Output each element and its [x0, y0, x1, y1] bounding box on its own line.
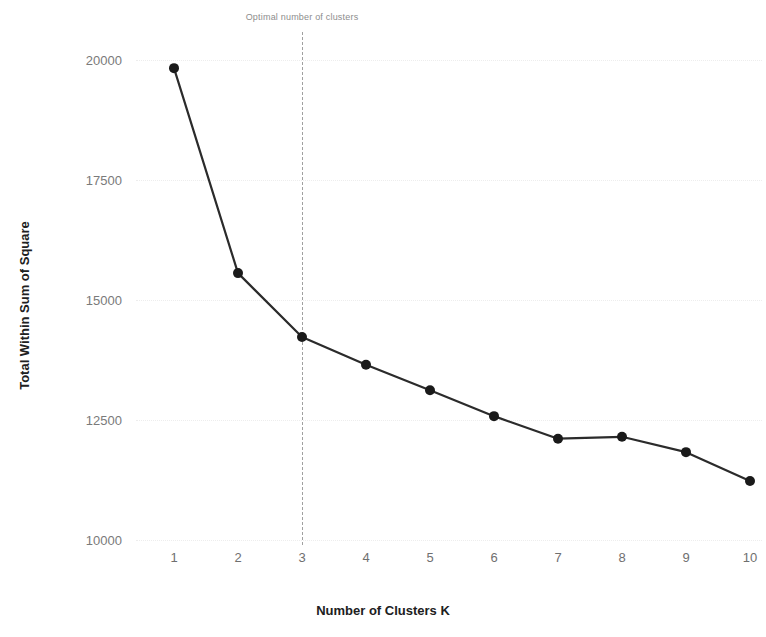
- x-tick-label: 4: [346, 550, 386, 565]
- y-tick-label: 17500: [52, 173, 122, 188]
- x-axis-tick-labels: 1 2 3 4 5 6 7 8 9 10: [136, 550, 762, 570]
- y-tick-label: 15000: [52, 293, 122, 308]
- optimal-clusters-annotation: Optimal number of clusters: [246, 12, 359, 22]
- x-tick-label: 8: [602, 550, 642, 565]
- x-tick-label: 2: [218, 550, 258, 565]
- x-tick-label: 9: [666, 550, 706, 565]
- y-axis-title: Total Within Sum of Square: [17, 166, 32, 446]
- y-tick-label: 20000: [52, 53, 122, 68]
- x-axis-title: Number of Clusters K: [0, 603, 766, 618]
- optimal-clusters-reference-line: [302, 32, 303, 545]
- x-tick-label: 7: [538, 550, 578, 565]
- gridline-10000: [136, 540, 762, 541]
- y-tick-label: 12500: [52, 413, 122, 428]
- x-tick-label: 5: [410, 550, 450, 565]
- elbow-plot-chart: Optimal number of clusters Total Within …: [0, 0, 766, 637]
- gridline-12500: [136, 420, 762, 421]
- x-tick-label: 3: [282, 550, 322, 565]
- y-tick-label: 10000: [52, 533, 122, 548]
- y-axis-tick-labels: 20000 17500 15000 12500 10000: [42, 32, 122, 545]
- gridline-15000: [136, 300, 762, 301]
- gridline-20000: [136, 60, 762, 61]
- gridline-17500: [136, 180, 762, 181]
- x-tick-label: 10: [730, 550, 766, 565]
- x-tick-label: 1: [154, 550, 194, 565]
- plot-area: [136, 32, 762, 545]
- x-tick-label: 6: [474, 550, 514, 565]
